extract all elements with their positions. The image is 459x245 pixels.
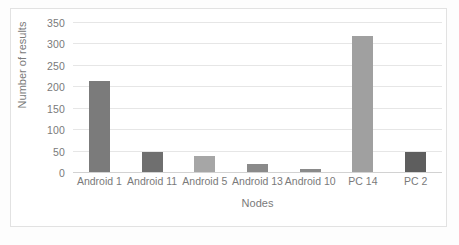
bar [142, 152, 163, 173]
y-axis-tick-label: 350 [47, 17, 65, 29]
y-axis-tick-label: 50 [53, 146, 65, 158]
x-axis-tick-label: Android 10 [284, 175, 337, 187]
chart-frame: 050100150200250300350 Number of results … [10, 8, 447, 227]
bar [194, 156, 215, 173]
x-axis-tick-labels: Android 1Android 11Android 5Android 13An… [73, 175, 442, 187]
y-axis-tick-label: 250 [47, 60, 65, 72]
chart-screenshot: 050100150200250300350 Number of results … [0, 0, 459, 245]
y-axis-tick-label: 300 [47, 38, 65, 50]
x-axis-tick-label: Android 5 [178, 175, 231, 187]
y-axis-tick-label: 150 [47, 103, 65, 115]
bar-slot [389, 23, 442, 173]
bar-slot [337, 23, 390, 173]
bar [89, 81, 110, 173]
bar [405, 152, 426, 173]
bar-series [73, 23, 442, 173]
bar-slot [73, 23, 126, 173]
x-axis-title: Nodes [73, 197, 442, 209]
x-axis-tick-label: Android 11 [126, 175, 179, 187]
x-axis-line [73, 172, 442, 173]
y-axis-tick-label: 0 [59, 167, 65, 179]
x-axis-tick-label: Android 13 [231, 175, 284, 187]
bar-slot [284, 23, 337, 173]
x-axis-tick-label: Android 1 [73, 175, 126, 187]
bar-slot [178, 23, 231, 173]
bar-slot [126, 23, 179, 173]
bar-slot [231, 23, 284, 173]
x-axis-tick-label: PC 2 [389, 175, 442, 187]
x-axis-tick-label: PC 14 [337, 175, 390, 187]
bar [352, 36, 373, 173]
y-axis-tick-label: 200 [47, 81, 65, 93]
y-axis-title: Number of results [16, 5, 28, 125]
y-axis-tick-label: 100 [47, 124, 65, 136]
plot-area [73, 23, 442, 173]
